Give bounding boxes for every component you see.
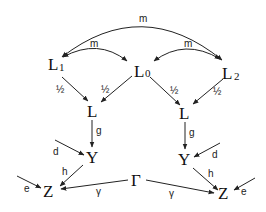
edge-gamma-right <box>146 180 214 193</box>
edge-label-m-top: m <box>139 13 147 24</box>
svg-text:1: 1 <box>59 61 65 73</box>
edge-label-half: ½ <box>56 84 65 95</box>
node-L1: L 1 <box>48 55 65 74</box>
edge-label-g-right: g <box>189 127 195 138</box>
node-L2: L 2 <box>222 64 240 83</box>
edge-label-e-left: e <box>24 183 30 194</box>
edge-label-m-left: m <box>90 38 98 49</box>
node-Y-left: Y <box>86 148 98 167</box>
edge-m-top <box>62 27 222 60</box>
edge-gamma-left <box>61 180 128 189</box>
node-Y-right: Y <box>178 150 190 169</box>
edge-label-half: ½ <box>170 85 179 96</box>
edge-label-g-left: g <box>96 125 102 136</box>
svg-text:L: L <box>134 62 144 81</box>
edge-h-right <box>193 168 218 190</box>
edge-L1-to-L-left <box>62 77 88 101</box>
edge-label-half: ½ <box>101 84 110 95</box>
edge-label-half: ½ <box>213 86 222 97</box>
svg-text:L: L <box>222 64 232 83</box>
edge-label-h-right: h <box>208 168 214 179</box>
edge-label-m-right: m <box>184 38 192 49</box>
edge-label-gamma-left: γ <box>96 186 101 197</box>
edge-label-d-right: d <box>212 149 218 160</box>
path-diagram: m m m L 1 L 0 L 2 ½ ½ ½ ½ L L g g Y Y d … <box>0 0 266 212</box>
node-L-left: L <box>87 102 97 121</box>
edge-m-left <box>63 48 127 61</box>
node-Z-left: Z <box>43 182 53 201</box>
svg-text:2: 2 <box>234 70 240 82</box>
edge-label-d-left: d <box>53 146 59 157</box>
edge-label-h-left: h <box>62 166 68 177</box>
node-Z-right: Z <box>218 184 228 203</box>
node-L-right: L <box>179 104 189 123</box>
node-Gamma: Γ <box>131 171 141 190</box>
edge-d-left <box>55 140 84 155</box>
edge-label-gamma-right: γ <box>169 188 174 199</box>
node-L0: L 0 <box>134 62 151 81</box>
edge-label-e-right: e <box>241 186 247 197</box>
svg-text:L: L <box>48 55 58 74</box>
